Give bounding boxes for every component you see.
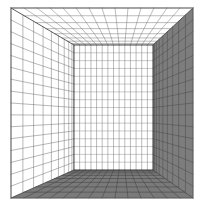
perspective-box-figure <box>0 0 205 210</box>
room-diagram <box>0 0 205 210</box>
